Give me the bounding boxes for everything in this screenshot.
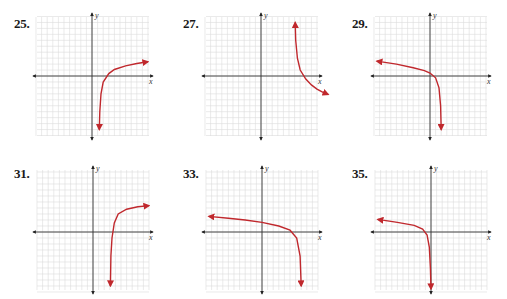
coordinate-graph: xy bbox=[338, 0, 507, 150]
coordinate-graph: xy bbox=[338, 150, 507, 299]
svg-text:x: x bbox=[148, 77, 153, 86]
coordinate-graph: xy bbox=[169, 0, 338, 150]
graph-panel-31: 31. xy bbox=[0, 150, 169, 299]
svg-text:y: y bbox=[95, 164, 100, 173]
svg-text:x: x bbox=[486, 233, 491, 242]
graph-panel-25: 25. xy bbox=[0, 0, 169, 150]
coordinate-graph: xy bbox=[0, 150, 169, 299]
graph-panel-33: 33. xy bbox=[169, 150, 338, 299]
svg-text:x: x bbox=[148, 233, 153, 242]
svg-text:y: y bbox=[263, 11, 268, 20]
svg-text:y: y bbox=[94, 11, 99, 20]
coordinate-graph: xy bbox=[169, 150, 338, 299]
graph-panel-35: 35. xy bbox=[338, 150, 507, 299]
coordinate-graph: xy bbox=[0, 0, 169, 150]
svg-text:y: y bbox=[433, 164, 438, 173]
svg-text:x: x bbox=[486, 77, 491, 86]
svg-text:y: y bbox=[432, 11, 437, 20]
svg-text:x: x bbox=[317, 77, 322, 86]
svg-text:x: x bbox=[317, 233, 322, 242]
graph-panel-27: 27. xy bbox=[169, 0, 338, 150]
graph-panel-29: 29. xy bbox=[338, 0, 507, 150]
svg-text:y: y bbox=[264, 164, 269, 173]
